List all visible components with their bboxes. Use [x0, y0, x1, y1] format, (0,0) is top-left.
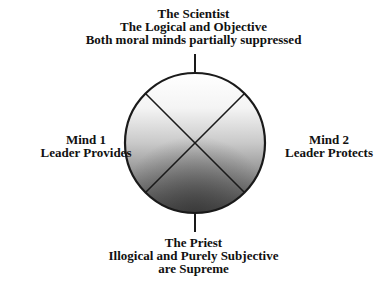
scientist-description: Both moral minds partially suppressed [0, 33, 387, 46]
mind-1-description: Leader Provides [36, 146, 136, 159]
priest-description: are Supreme [0, 262, 387, 275]
mind-2-label: Mind 2 Leader Protects [283, 133, 375, 159]
mind-2-description: Leader Protects [283, 146, 375, 159]
priest-label: The Priest Illogical and Purely Subjecti… [0, 236, 387, 275]
mind-1-label: Mind 1 Leader Provides [36, 133, 136, 159]
scientist-label: The Scientist The Logical and Objective … [0, 7, 387, 46]
